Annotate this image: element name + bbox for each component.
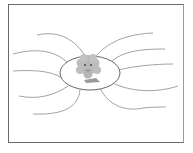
branch-line <box>96 33 153 56</box>
branch-line <box>115 84 178 91</box>
branch-line <box>19 86 68 97</box>
branch-line <box>13 71 62 78</box>
branch-line <box>112 49 165 61</box>
mind-map <box>0 0 193 153</box>
branch-line <box>13 51 68 63</box>
branch-line <box>37 34 86 57</box>
branch-line <box>33 90 80 114</box>
branch-line <box>118 64 173 70</box>
branch-line <box>100 88 166 109</box>
